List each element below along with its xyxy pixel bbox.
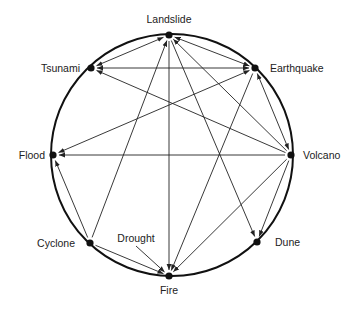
node-dot (87, 64, 94, 71)
edge-flood-earthquake (59, 70, 250, 152)
node-label: Volcano (303, 149, 341, 161)
node-volcano: Volcano (287, 149, 340, 161)
edge-volcano-landslide (173, 39, 286, 151)
node-label: Fire (160, 284, 178, 296)
node-label: Cyclone (37, 237, 75, 249)
disaster-network-diagram: LandslideTsunamiEarthquakeFloodVolcanoCy… (0, 0, 362, 309)
edge-cyclone-fire (96, 245, 164, 273)
node-label: Landslide (147, 13, 192, 25)
node-dot (253, 238, 260, 245)
node-dot (287, 151, 294, 158)
node-dot (165, 272, 172, 279)
node-drought: Drought (117, 232, 154, 244)
node-label: Dune (275, 236, 300, 248)
node-dot (165, 31, 172, 38)
edge-cyclone-landslide (92, 41, 167, 238)
node-label: Flood (19, 149, 45, 161)
node-dot (49, 151, 56, 158)
edge-landslide-dune (171, 41, 254, 237)
edge-earthquake-fire (171, 74, 252, 271)
node-earthquake: Earthquake (251, 62, 323, 74)
edge-volcano-tsunami (97, 70, 286, 152)
node-dot (86, 239, 93, 246)
node-label: Tsunami (41, 62, 80, 74)
node-dot (251, 64, 258, 71)
edge-volcano-fire (173, 159, 286, 272)
node-label: Drought (117, 232, 154, 244)
nodes-group: LandslideTsunamiEarthquakeFloodVolcanoCy… (19, 13, 341, 296)
edges-group (55, 37, 288, 274)
node-label: Earthquake (270, 62, 324, 74)
